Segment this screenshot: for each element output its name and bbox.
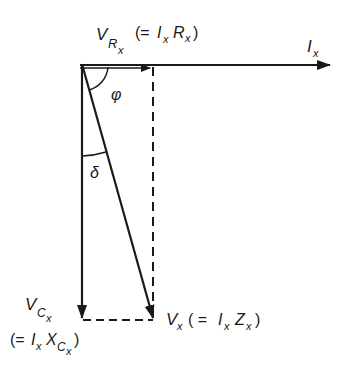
svg-text:): ): [74, 331, 79, 348]
svg-text:C: C: [57, 340, 66, 354]
svg-text:I: I: [157, 24, 162, 41]
svg-text:x: x: [35, 340, 42, 352]
svg-text:x: x: [245, 320, 252, 332]
svg-text:Z: Z: [234, 311, 246, 328]
svg-text:( =: ( =: [188, 311, 207, 328]
svg-text:x: x: [45, 312, 52, 324]
svg-text:R: R: [173, 24, 185, 41]
svg-text:x: x: [223, 320, 230, 332]
ix-label: I x: [307, 37, 319, 59]
svg-text:I: I: [307, 37, 312, 56]
phi-angle-arc: [89, 67, 108, 90]
svg-text:C: C: [37, 306, 46, 320]
svg-text:x: x: [117, 44, 124, 56]
delta-angle-arc: [82, 152, 106, 156]
svg-text:(=: (=: [10, 331, 25, 348]
svg-text:): ): [255, 311, 260, 328]
phi-label: φ: [111, 86, 121, 103]
vc-label: V C x: [25, 295, 52, 324]
svg-text:x: x: [312, 47, 319, 59]
vc-equation: (= I x X C x ): [10, 331, 79, 357]
svg-text:x: x: [184, 32, 191, 44]
svg-text:R: R: [108, 36, 117, 51]
svg-text:(=: (=: [135, 24, 150, 41]
phasor-diagram: V R x (= I x R x ) I x φ δ V C x (= I x …: [0, 0, 346, 376]
svg-text:x: x: [176, 320, 183, 332]
vx-label: V x ( = I x Z x ): [166, 310, 260, 332]
svg-text:x: x: [162, 33, 169, 45]
vr-label: V R x (= I x R x ): [96, 24, 198, 56]
svg-text:): ): [193, 24, 198, 41]
svg-text:x: x: [65, 345, 72, 357]
svg-text:I: I: [218, 311, 223, 328]
delta-label: δ: [90, 164, 100, 181]
